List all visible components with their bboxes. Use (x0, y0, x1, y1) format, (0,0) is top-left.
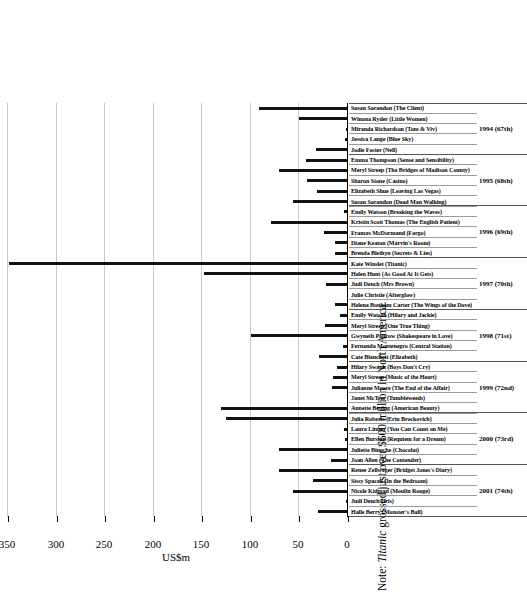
bar-slot (8, 196, 348, 206)
bar (331, 459, 348, 462)
bar-slot (8, 207, 348, 217)
category-separator (349, 444, 477, 445)
category-separator (349, 185, 477, 186)
year-group-label: 1996 (69th) (479, 228, 513, 236)
category-separator (349, 475, 477, 476)
bar-slot (8, 238, 348, 248)
bar (332, 386, 348, 389)
category-label: Frances McDormand (Fargo) (351, 230, 425, 236)
category-label: Julianne Moore (The End of the Affair) (351, 385, 450, 391)
category-separator (349, 454, 477, 455)
category-label: Emily Watson (Breaking the Waves) (351, 209, 442, 215)
category-label: Laura Linney (You Can Count on Me) (351, 426, 447, 432)
bar (271, 221, 348, 224)
year-group-separator (349, 361, 527, 362)
bar-slot (8, 310, 348, 320)
category-separator (349, 164, 477, 165)
bar-slot (8, 269, 348, 279)
bar-slot (8, 165, 348, 175)
category-label: Julia Roberts (Erin Brockovich) (351, 416, 432, 422)
bar-slot (8, 176, 348, 186)
bar-slot (8, 114, 348, 124)
category-separator (349, 195, 477, 196)
category-label: Judi Dench (Iris) (351, 498, 394, 504)
bar-slot (8, 424, 348, 434)
category-separator (349, 175, 477, 176)
bar (279, 469, 348, 472)
category-separator (349, 340, 477, 341)
year-group-separator (349, 154, 527, 155)
category-label: Julie Christie (Afterglow) (351, 292, 415, 298)
bar-slot (8, 103, 348, 113)
year-group-label: 1998 (71st) (479, 332, 511, 340)
category-label: Kristin Scott Thomas (The English Patien… (351, 219, 460, 225)
category-separator (349, 495, 477, 496)
category-label: Brenda Blethyn (Secrets & Lies) (351, 250, 432, 256)
category-label: Diane Keaton (Marvin's Room) (351, 240, 430, 246)
bar-slot (8, 455, 348, 465)
bar (319, 355, 348, 358)
bar (279, 448, 348, 451)
bar (251, 334, 348, 337)
category-label: Jessica Lange (Blue Sky) (351, 136, 413, 142)
category-label: Nicole Kidman (Moulin Rouge) (351, 488, 430, 494)
category-label: Meryl Streep (Music of the Heart) (351, 374, 436, 380)
year-group-label: 1999 (72nd) (479, 384, 514, 392)
category-label: Kate Winslet (Titanic) (351, 261, 407, 267)
bar-slot (8, 434, 348, 444)
category-separator (349, 371, 477, 372)
category-label: Renee Zellweger (Bridget Jones's Diary) (351, 467, 452, 473)
bar-slot (8, 227, 348, 237)
category-separator (349, 226, 477, 227)
bar-slot (8, 331, 348, 341)
category-label: Hilary Swank (Boys Don't Cry) (351, 364, 430, 370)
category-label: Meryl Streep (One True Thing) (351, 323, 430, 329)
bar-slot (8, 403, 348, 413)
category-label: Meryl Streep (The Bridges of Madison Cou… (351, 167, 470, 173)
category-separator (349, 506, 477, 507)
axis-tick-label: 350 (0, 538, 24, 550)
category-label: Annette Bening (American Beauty) (351, 405, 439, 411)
axis-tick-label: 100 (233, 538, 267, 550)
bar-slot (8, 414, 348, 424)
bar-slot (8, 352, 348, 362)
bar-slot (8, 258, 348, 268)
bar (279, 169, 348, 172)
category-separator (349, 392, 477, 393)
axis-tick-label: 150 (184, 538, 218, 550)
bar-slot (8, 496, 348, 506)
bar-slot (8, 289, 348, 299)
bar (316, 148, 348, 151)
category-label: Janet McTeer (Tumbleweeds) (351, 395, 425, 401)
bar-slot (8, 362, 348, 372)
category-separator (349, 113, 477, 114)
category-separator (349, 237, 477, 238)
bar (318, 510, 348, 513)
bar-slot (8, 372, 348, 382)
bar (317, 190, 348, 193)
bar (299, 117, 348, 120)
category-label: Miranda Richardson (Tom & Viv) (351, 126, 437, 132)
year-group-label: 2001 (74th) (479, 487, 513, 495)
bar (333, 376, 348, 379)
category-label: Juliette Binoche (Chocolat) (351, 447, 419, 453)
year-group-label: 1994 (67th) (479, 125, 513, 133)
year-group-separator (349, 516, 527, 517)
category-label: Jodie Foster (Nell) (351, 147, 397, 153)
category-label: Sissy Spacek (In the Bedroom) (351, 478, 428, 484)
bar-slot (8, 279, 348, 289)
category-label: Emily Watson (Hilary and Jackie) (351, 312, 436, 318)
category-separator (349, 330, 477, 331)
category-separator (349, 382, 477, 383)
bar-slot (8, 124, 348, 134)
bar (306, 159, 348, 162)
category-label: Cate Blanchett (Elizabeth) (351, 354, 417, 360)
bar-slot (8, 476, 348, 486)
bar-slot (8, 465, 348, 475)
category-separator (349, 247, 477, 248)
category-separator (349, 133, 477, 134)
category-label: Halle Berry (Monster's Ball) (351, 509, 423, 515)
bar (326, 283, 348, 286)
category-label: Elizabeth Shue (Leaving Las Vegas) (351, 188, 441, 194)
